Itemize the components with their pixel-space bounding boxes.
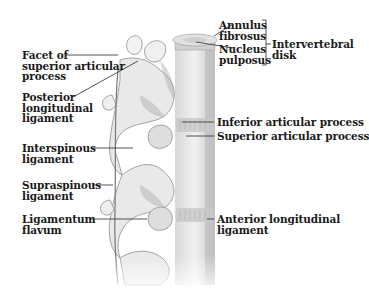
label-facet-of-superior-articular-process: Facet of superior articular process [22, 50, 125, 82]
label-posterior-longitudinal-ligament: Posterior longitudinal ligament [22, 92, 93, 124]
label-nucleus-pulposus: Nucleus pulposus [219, 44, 271, 65]
label-annulus-fibrosus: Annulus fibrosus [219, 20, 267, 41]
label-superior-articular-process: Superior articular process [217, 131, 369, 142]
label-intervertebral-disk: Intervertebral disk [272, 39, 354, 60]
label-anterior-longitudinal-ligament: Anterior longitudinal ligament [217, 214, 340, 235]
label-interspinous-ligament: Interspinous ligament [22, 143, 96, 164]
label-ligamentum-flavum: Ligamentum flavum [22, 214, 96, 235]
vertebral-bodies [173, 34, 217, 285]
label-supraspinous-ligament: Supraspinous ligament [22, 180, 101, 201]
label-inferior-articular-process: Inferior articular process [217, 117, 364, 128]
